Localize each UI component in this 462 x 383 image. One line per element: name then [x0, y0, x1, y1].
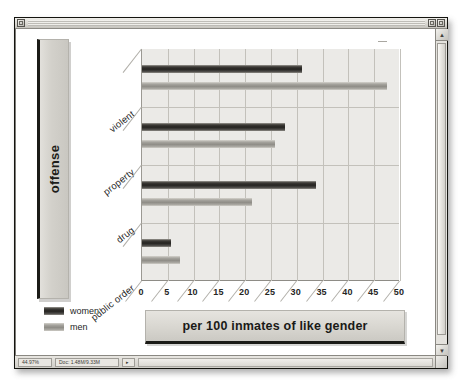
y-axis-title-plaque: offense — [37, 39, 69, 299]
collapse-box-icon[interactable] — [437, 19, 445, 27]
close-box-icon[interactable] — [17, 19, 25, 27]
status-bar: 44.97% Doc: 1.48M/9.33M ▸ — [15, 355, 447, 368]
x-axis-tick-label: 45 — [368, 287, 378, 297]
bar-women-public-order — [142, 239, 171, 247]
category-label: public order — [89, 282, 137, 323]
titlebar-stripes — [28, 20, 425, 26]
collapse-box-glyph — [439, 21, 443, 25]
close-box-glyph — [19, 21, 23, 25]
plot-area — [141, 49, 399, 281]
legend-swatch-women — [44, 307, 64, 315]
x-axis-tick-label: 25 — [265, 287, 275, 297]
scroll-down-glyph: ▼ — [439, 348, 445, 354]
window-control-boxes — [428, 19, 445, 27]
chart-title-text: per 100 inmates of like gender — [182, 319, 367, 333]
x-axis-tick-label: 10 — [187, 287, 197, 297]
x-axis-tick-label: 35 — [316, 287, 326, 297]
x-axis-tick-label: 50 — [394, 287, 404, 297]
category-gridline — [142, 165, 399, 166]
bar-men-drug — [142, 198, 252, 206]
status-popup-arrow-icon[interactable]: ▸ — [122, 358, 135, 367]
status-message-area — [138, 358, 433, 367]
y-axis-title-label: offense — [47, 145, 62, 193]
bar-men-violent — [142, 82, 387, 90]
legend-item: men — [44, 322, 99, 332]
legend-label-men: men — [70, 322, 88, 332]
chart-canvas[interactable]: offense women men — [16, 29, 427, 356]
x-axis-tick-label: 20 — [239, 287, 249, 297]
category-gridline — [142, 107, 399, 108]
bar-men-property — [142, 140, 275, 148]
zoom-box-icon[interactable] — [428, 19, 436, 27]
category-label: property — [101, 166, 136, 197]
zoom-box-glyph — [430, 21, 434, 25]
x-axis-tick-label: 0 — [138, 287, 143, 297]
bar-women-violent — [142, 65, 302, 73]
bar-women-drug — [142, 181, 316, 189]
category-label: violent — [107, 108, 137, 134]
x-gridline — [400, 49, 401, 281]
x-axis-tick-label: 5 — [164, 287, 169, 297]
bar-men-public-order — [142, 256, 180, 264]
status-zoom-level[interactable]: 44.97% — [18, 358, 52, 367]
status-doc-size[interactable]: Doc: 1.48M/9.33M — [55, 358, 119, 367]
category-depth-tick — [123, 49, 142, 73]
x-axis-tick-label: 40 — [342, 287, 352, 297]
resize-grip-icon[interactable] — [435, 356, 447, 368]
canvas-mark — [378, 41, 387, 42]
vertical-scrollbar-thumb[interactable] — [437, 43, 446, 335]
window-titlebar[interactable] — [15, 18, 447, 29]
vertical-scrollbar[interactable]: ▲ ▼ — [435, 29, 447, 356]
scroll-up-glyph: ▲ — [439, 32, 445, 38]
screenshot-root: offense women men — [0, 0, 462, 383]
chart-title-plaque: per 100 inmates of like gender — [145, 310, 405, 344]
category-gridline — [142, 223, 399, 224]
bar-women-property — [142, 123, 285, 131]
legend-swatch-men — [44, 323, 64, 331]
window-body: offense women men — [15, 29, 447, 356]
x-axis-tick-label: 15 — [213, 287, 223, 297]
application-window: offense women men — [14, 17, 448, 369]
scroll-up-arrow-icon[interactable]: ▲ — [436, 29, 448, 41]
x-axis-tick-label: 30 — [291, 287, 301, 297]
